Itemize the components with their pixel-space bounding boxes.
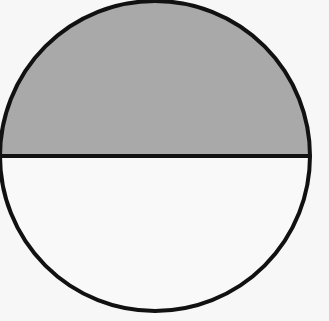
unshaded-bottom-half — [0, 156, 310, 311]
shaded-top-half — [0, 1, 310, 156]
circle-diagram — [0, 0, 329, 321]
